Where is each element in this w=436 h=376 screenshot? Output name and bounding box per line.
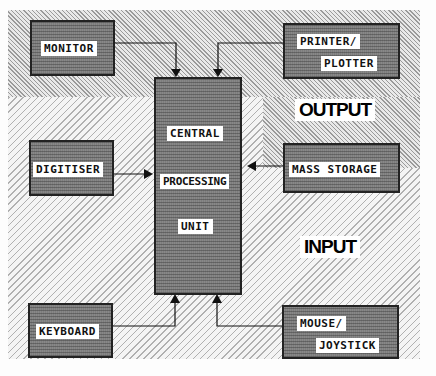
output-label: OUTPUT bbox=[295, 99, 375, 121]
keyboard-label: KEYBOARD bbox=[36, 324, 99, 339]
cpu-label-line1: CENTRAL bbox=[167, 126, 223, 141]
diagram-canvas: OUTPUT INPUT CENTRAL PROCESSING UNIT MON… bbox=[0, 0, 436, 376]
monitor-box: MONITOR bbox=[30, 20, 115, 76]
digitiser-box: DIGITISER bbox=[29, 140, 114, 196]
input-label: INPUT bbox=[300, 236, 360, 258]
keyboard-box: KEYBOARD bbox=[28, 303, 113, 358]
mass-storage-box: MASS STORAGE bbox=[283, 143, 400, 193]
cpu-box: CENTRAL PROCESSING UNIT bbox=[154, 77, 242, 295]
monitor-label: MONITOR bbox=[41, 41, 97, 56]
printer-label: PRINTER/ bbox=[297, 34, 360, 49]
digitiser-label: DIGITISER bbox=[33, 162, 103, 177]
cpu-label-line3: UNIT bbox=[178, 219, 213, 234]
mass-storage-label: MASS STORAGE bbox=[289, 162, 380, 177]
joystick-label: JOYSTICK bbox=[316, 338, 379, 353]
mouse-label: MOUSE/ bbox=[297, 316, 346, 331]
printer-plotter-box: PRINTER/ PLOTTER bbox=[283, 23, 400, 79]
mouse-joystick-box: MOUSE/ JOYSTICK bbox=[282, 305, 399, 359]
plotter-label: PLOTTER bbox=[321, 56, 377, 71]
cpu-label-line2: PROCESSING bbox=[160, 174, 229, 189]
